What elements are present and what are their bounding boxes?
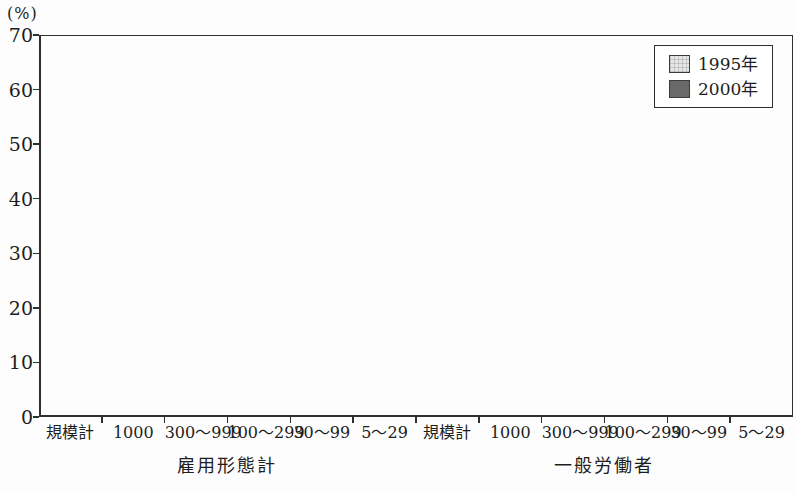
- legend-swatch-2000年: [669, 80, 690, 98]
- y-tick-mark-50: [33, 143, 39, 145]
- x-category-label-0: 規模計: [39, 423, 102, 443]
- bar-chart-figure: (%) 010203040506070 規模計1000300〜999100〜29…: [0, 0, 797, 493]
- y-tick-label-10: 10: [0, 352, 33, 372]
- x-category-label-4: 30〜99: [290, 423, 353, 443]
- x-category-label-8: 300〜999: [542, 423, 605, 443]
- x-category-label-9: 100〜299: [605, 423, 668, 443]
- legend-label-2000年: 2000年: [698, 79, 758, 99]
- group-label-regular-workers: 一般労働者: [504, 454, 704, 478]
- group-label-employment-total: 雇用形態計: [127, 454, 327, 478]
- y-tick-mark-60: [33, 89, 39, 91]
- legend-entry-1995年: 1995年: [669, 54, 772, 74]
- y-tick-label-50: 50: [0, 134, 33, 154]
- y-tick-mark-70: [33, 34, 39, 36]
- y-tick-mark-20: [33, 307, 39, 309]
- x-category-label-3: 100〜299: [228, 423, 291, 443]
- y-tick-label-0: 0: [0, 407, 33, 427]
- y-tick-mark-0: [33, 416, 39, 418]
- y-tick-label-40: 40: [0, 189, 33, 209]
- legend: 1995年2000年: [654, 45, 773, 108]
- y-tick-mark-10: [33, 362, 39, 364]
- x-category-label-6: 規模計: [416, 423, 479, 443]
- x-category-label-7: 1000: [479, 423, 542, 443]
- y-tick-mark-40: [33, 198, 39, 200]
- x-category-label-2: 300〜999: [165, 423, 228, 443]
- y-tick-label-20: 20: [0, 298, 33, 318]
- x-category-label-10: 30〜99: [667, 423, 730, 443]
- y-tick-label-60: 60: [0, 80, 33, 100]
- x-category-label-5: 5〜29: [353, 423, 416, 443]
- y-axis-unit-label: (%): [7, 4, 38, 23]
- x-category-label-1: 1000: [102, 423, 165, 443]
- y-tick-label-30: 30: [0, 243, 33, 263]
- y-tick-label-70: 70: [0, 25, 33, 45]
- legend-label-1995年: 1995年: [698, 54, 758, 74]
- y-tick-mark-30: [33, 253, 39, 255]
- legend-swatch-1995年: [669, 55, 690, 73]
- legend-entry-2000年: 2000年: [669, 79, 772, 99]
- x-category-label-11: 5〜29: [730, 423, 793, 443]
